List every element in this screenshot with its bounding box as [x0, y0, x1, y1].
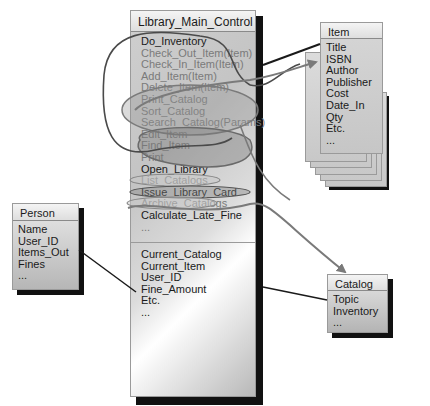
catalog-class-title: Catalog	[328, 275, 387, 291]
operation-do-inventory: Do_Inventory	[141, 36, 255, 48]
person-class[interactable]: Person Name User_ID Items_Out Fines ...	[12, 203, 79, 290]
attribute-etc: Etc.	[141, 295, 255, 307]
main-to-catalog-association	[263, 287, 327, 300]
main-class-attributes: Current_Catalog Current_Item User_ID Fin…	[131, 242, 255, 319]
item-attribute: Date_In	[326, 100, 382, 112]
item-attribute: ...	[326, 135, 382, 147]
person-attribute: Fines	[18, 259, 78, 271]
operation-calculate-late-fine: Calculate_Late_Fine	[141, 210, 255, 222]
catalog-attribute: ...	[333, 317, 387, 329]
item-class-title: Item	[321, 23, 382, 39]
operation-search-catalog: Search_Catalog(Params)	[141, 117, 255, 129]
attribute-ellipsis: ...	[141, 307, 255, 319]
item-attribute: Title	[326, 42, 382, 54]
operation-print-catalog: Print_Catalog	[141, 94, 255, 106]
person-class-title: Person	[13, 204, 78, 221]
operation-print: Print	[141, 152, 255, 164]
person-attribute: Name	[18, 224, 78, 236]
person-to-main-association	[79, 250, 136, 292]
item-attribute: Etc.	[326, 123, 382, 135]
catalog-attributes: Topic Inventory ...	[328, 291, 387, 329]
person-attributes: Name User_ID Items_Out Fines ...	[13, 221, 78, 282]
operation-ellipsis: ...	[141, 222, 255, 234]
attribute-current-catalog: Current_Catalog	[141, 249, 255, 261]
catalog-attribute: Topic	[333, 294, 387, 306]
item-attributes: Title ISBN Author Publisher Cost Date_In…	[321, 39, 382, 146]
item-class[interactable]: Item Title ISBN Author Publisher Cost Da…	[320, 22, 383, 154]
operation-list-catalogs: List_Catalogs	[141, 175, 255, 187]
main-class-title: Library_Main_Control	[131, 11, 255, 32]
catalog-class[interactable]: Catalog Topic Inventory ...	[327, 274, 388, 333]
library-main-control-class[interactable]: Library_Main_Control Do_Inventory Check_…	[130, 10, 256, 397]
person-attribute: ...	[18, 270, 78, 282]
main-class-operations: Do_Inventory Check_Out_Item(Item) Check_…	[131, 32, 255, 233]
